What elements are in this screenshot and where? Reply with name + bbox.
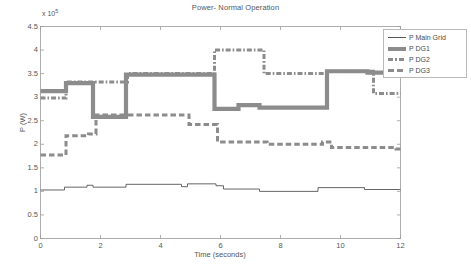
legend-key-dashed-icon (387, 66, 407, 76)
legend-label-2: P DG2 (409, 56, 430, 63)
legend-key-solid-thick-icon (387, 44, 407, 54)
legend-item-p-dg2[interactable]: P DG2 (387, 54, 464, 65)
legend-key-solid-thin-icon (387, 33, 407, 43)
series-line-p-dg3 (41, 115, 401, 155)
legend-label-3: P DG3 (409, 67, 430, 74)
legend-key-dash-dot-icon (387, 55, 407, 65)
chart-legend[interactable]: P Main Grid P DG1 P DG2 P DG3 (383, 29, 467, 78)
legend-item-p-dg3[interactable]: P DG3 (387, 65, 464, 76)
legend-label-1: P DG1 (409, 45, 430, 52)
legend-item-p-dg1[interactable]: P DG1 (387, 43, 464, 54)
series-line-p-main-grid (41, 184, 401, 192)
figure-canvas: Power- Normal Operation x 105 P (W) Time… (0, 0, 471, 270)
legend-label-0: P Main Grid (409, 34, 446, 41)
legend-item-p-main-grid[interactable]: P Main Grid (387, 32, 464, 43)
series-line-p-dg1 (41, 71, 401, 117)
